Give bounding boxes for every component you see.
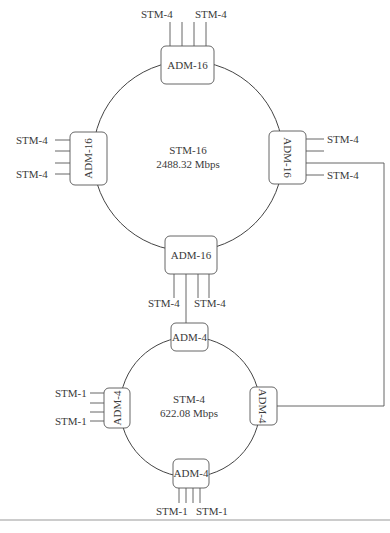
inner-bottom-tributaries <box>179 488 200 503</box>
outer-bottom-trib-right-label: STM-4 <box>194 297 226 309</box>
inner-bottom-adm4-label: ADM-4 <box>174 467 209 479</box>
outer-right-trib-bottom-label: STM-4 <box>327 169 359 181</box>
inner-top-adm4-label: ADM-4 <box>172 331 207 343</box>
inner-ring-name: STM-4 <box>173 393 205 405</box>
outer-bottom-adm16-label: ADM-16 <box>171 249 212 261</box>
outer-right-trib-top-label: STM-4 <box>327 133 359 145</box>
outer-ring-stm16 <box>93 61 283 251</box>
outer-right-adm16-label: ADM-16 <box>282 137 294 178</box>
outer-top-tributaries <box>170 22 206 46</box>
outer-left-adm16-label: ADM-16 <box>82 138 94 179</box>
outer-top-trib-left-label: STM-4 <box>141 8 173 20</box>
inner-left-adm4-label: ADM-4 <box>111 390 123 425</box>
inner-right-adm4-label: ADM-4 <box>257 389 269 424</box>
outer-left-tributaries <box>55 140 70 174</box>
outer-top-trib-right-label: STM-4 <box>195 8 227 20</box>
outer-left-trib-bottom-label: STM-4 <box>16 168 48 180</box>
outer-ring-name: STM-16 <box>169 144 207 156</box>
inner-left-trib-top-label: STM-1 <box>55 387 87 399</box>
inner-left-trib-bottom-label: STM-1 <box>55 415 87 427</box>
outer-ring-rate: 2488.32 Mbps <box>156 158 220 170</box>
outer-bottom-trib-left-label: STM-4 <box>148 297 180 309</box>
inner-bottom-trib-left-label: STM-1 <box>156 505 188 517</box>
inter-ring-connector-right <box>277 163 384 406</box>
outer-top-adm16-label: ADM-16 <box>167 59 208 71</box>
inner-bottom-trib-right-label: STM-1 <box>196 505 228 517</box>
sdh-ring-diagram: STM-4 STM-4 ADM-16 STM-4 STM-4 ADM-16 ST… <box>0 0 390 533</box>
inner-ring-rate: 622.08 Mbps <box>160 407 218 419</box>
outer-left-trib-top-label: STM-4 <box>16 134 48 146</box>
inner-left-tributaries <box>90 393 104 421</box>
